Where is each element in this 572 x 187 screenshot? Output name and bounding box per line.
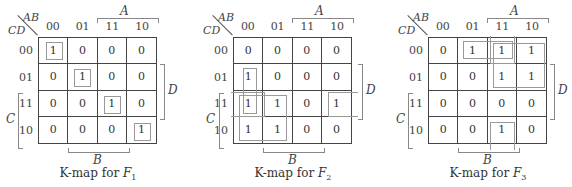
caption-text: K-map for (450, 166, 513, 180)
kmap-caption: K-map for F1 (18, 166, 178, 182)
caption-sub: 3 (521, 173, 526, 182)
caption-sub: 1 (131, 173, 136, 182)
var-c-label: C (206, 112, 215, 126)
var-a-label: A (315, 4, 324, 18)
group-loop-wrap-bottom (490, 122, 515, 150)
cell: 0 (263, 64, 292, 90)
cell: 0 (517, 91, 546, 117)
cell: 0 (39, 91, 68, 117)
col-label: 00 (428, 20, 458, 33)
bracket-c (408, 93, 413, 149)
group-loop-wrap-left (231, 92, 265, 117)
kmap-caption: K-map for F3 (408, 166, 568, 182)
var-a-label: A (510, 4, 519, 18)
cell: 0 (68, 117, 97, 143)
cell: 0 (488, 91, 517, 117)
kmap-f2: AB CD 00 01 11 10 00 01 11 10 0 0 0 0 1 … (195, 0, 385, 187)
cell: 0 (263, 38, 292, 64)
cell: 0 (429, 38, 458, 64)
col-label: 01 (263, 20, 293, 33)
caption-text: K-map for (60, 166, 123, 180)
bracket-a (487, 18, 549, 23)
cell: 0 (429, 117, 458, 143)
var-b-label: B (288, 153, 297, 167)
group-loop (74, 69, 91, 87)
cell: 0 (458, 91, 487, 117)
row-label: 00 (206, 44, 228, 57)
cell: 0 (98, 117, 127, 143)
kmap-f1: AB CD 00 01 11 10 00 01 11 10 1 0 0 0 0 … (0, 0, 190, 187)
cell: 0 (517, 117, 546, 143)
var-c-label: C (6, 112, 15, 126)
cell: 0 (322, 64, 351, 90)
row-var-label: CD (398, 24, 415, 37)
cell: 0 (127, 64, 156, 90)
caption-sub: 2 (326, 173, 331, 182)
cell: 0 (293, 38, 322, 64)
bracket-d (160, 64, 165, 120)
row-label: 01 (401, 71, 423, 84)
var-a-label: A (120, 4, 129, 18)
cell: 0 (68, 91, 97, 117)
cell: 0 (98, 64, 127, 90)
row-var-label: CD (8, 24, 25, 37)
cell: 0 (39, 117, 68, 143)
group-loop (104, 96, 121, 114)
var-d-label: D (558, 83, 568, 97)
col-label: 00 (38, 20, 68, 33)
col-label: 00 (233, 20, 263, 33)
row-var-label: CD (203, 24, 220, 37)
bracket-d (550, 64, 555, 120)
bracket-d (358, 64, 363, 120)
cell: 0 (429, 91, 458, 117)
group-loop-wrap-top (490, 36, 515, 64)
cell: 0 (98, 38, 127, 64)
col-label: 01 (458, 20, 488, 33)
kmap-caption: K-map for F2 (213, 166, 373, 182)
var-d-label: D (366, 83, 376, 97)
cell: 0 (234, 38, 263, 64)
cell: 0 (127, 38, 156, 64)
group-loop-wrap-right (328, 92, 358, 117)
group-loop (134, 123, 151, 141)
var-b-label: B (483, 153, 492, 167)
cell: 0 (429, 64, 458, 90)
cell: 0 (127, 91, 156, 117)
bracket-c (18, 93, 23, 149)
cell: 0 (293, 91, 322, 117)
kmap-f3: AB CD 00 01 11 10 00 01 11 10 0 1 1 1 0 … (390, 0, 572, 187)
var-c-label: C (396, 112, 405, 126)
group-loop (46, 42, 63, 60)
cell: 0 (39, 64, 68, 90)
row-label: 11 (206, 97, 228, 110)
cell: 0 (293, 64, 322, 90)
cell: 0 (458, 64, 487, 90)
var-b-label: B (93, 153, 102, 167)
bracket-a (292, 18, 354, 23)
cell: 0 (458, 117, 487, 143)
cell: 0 (322, 38, 351, 64)
var-d-label: D (168, 83, 178, 97)
row-label: 01 (11, 71, 33, 84)
bracket-c (219, 93, 224, 149)
bracket-a (97, 18, 159, 23)
caption-text: K-map for (255, 166, 318, 180)
col-label: 01 (68, 20, 98, 33)
row-label: 00 (401, 44, 423, 57)
cell: 0 (322, 117, 351, 143)
cell: 0 (68, 38, 97, 64)
row-label: 00 (11, 44, 33, 57)
row-label: 01 (206, 71, 228, 84)
cell: 0 (293, 117, 322, 143)
